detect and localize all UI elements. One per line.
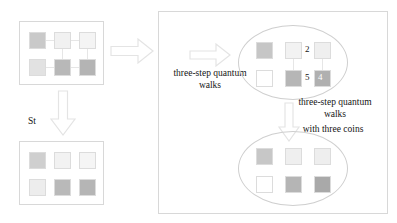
state-cell [314,148,331,165]
lattice-cell [29,179,46,196]
state-cell [256,176,273,193]
state-cell [256,42,273,59]
connector-line [322,59,323,70]
figure-canvas: St three-step quantum wa [0,0,397,223]
state-cell [285,176,302,193]
lattice-cell [29,32,46,49]
connector-line [87,49,88,59]
lattice-cell [54,152,71,169]
arrow-right-icon [189,43,231,67]
shifted-lattice-grid [20,142,103,204]
lattice-cell [29,152,46,169]
amplitude-label-2: 2 [305,45,310,54]
connector-line [71,40,79,41]
connector-line [46,40,54,41]
caption-three-coin-walks-line2: walks [279,108,391,120]
shifted-lattice-box [19,141,104,205]
connector-line [46,67,54,68]
state-cell [285,148,302,165]
connector-line [62,49,63,59]
lattice-cell [54,59,71,76]
state-cell [314,42,331,59]
lattice-cell [29,59,46,76]
state-cell [285,42,302,59]
arrow-down-icon [50,90,76,136]
lattice-cell [79,179,96,196]
connector-line [293,59,294,70]
lattice-cell [54,179,71,196]
connector-line [71,67,79,68]
lattice-cell [54,32,71,49]
state-cell [256,148,273,165]
state-cell [285,70,302,87]
lattice-cell [79,59,96,76]
caption-three-coin-walks-line1: three-step quantum [279,96,391,108]
ellipse-bottom-state [238,131,348,206]
quantum-walk-panel: three-step quantum walks 2 5 4 three-ste… [158,11,388,214]
state-cell [314,176,331,193]
amplitude-label-5: 5 [305,73,310,82]
initial-lattice-grid [20,22,103,84]
amplitude-label-4: 4 [318,73,323,82]
lattice-cell [79,152,96,169]
state-cell [256,70,273,87]
caption-three-step-walks-line2: walks [162,79,258,91]
lattice-cell [79,32,96,49]
initial-lattice-box [19,21,104,85]
shift-operator-label: St [28,116,36,127]
arrow-right-icon [110,38,154,64]
